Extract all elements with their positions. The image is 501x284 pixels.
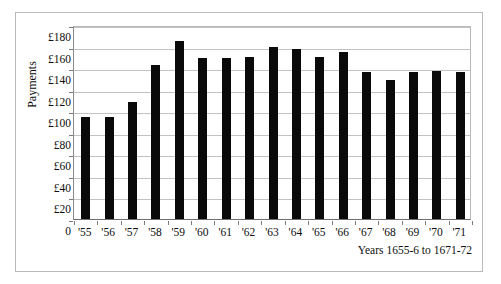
bar <box>151 65 160 219</box>
bar <box>362 72 371 219</box>
bar <box>105 117 114 219</box>
x-axis-tick-label: '70 <box>424 226 447 238</box>
y-axis-tick-labels: Payments 0£20£40£60£80£100£120£140£160£1… <box>16 25 71 235</box>
bar <box>198 58 207 219</box>
y-axis-title: Payments <box>25 40 40 130</box>
x-axis-tick-label: '63 <box>260 226 283 238</box>
y-axis-tick-label: £80 <box>54 140 71 151</box>
y-axis-tick-label: £40 <box>54 183 71 194</box>
y-axis-tick-mark <box>69 156 73 157</box>
y-axis-tick-label: 0 <box>65 226 71 237</box>
y-axis-tick-mark <box>69 92 73 93</box>
y-axis-tick-mark <box>69 178 73 179</box>
x-axis-tick-label: '65 <box>307 226 330 238</box>
x-axis-title: Years 1655-6 to 1671-72 <box>358 244 472 256</box>
x-axis-tick-label: '60 <box>190 226 213 238</box>
x-axis-tick-label: '67 <box>354 226 377 238</box>
bar <box>409 72 418 219</box>
y-axis-tick-mark <box>69 113 73 114</box>
y-axis-tick-mark <box>69 27 73 28</box>
y-axis-tick-label: £100 <box>48 118 71 129</box>
bar <box>222 58 231 219</box>
y-axis-tick-label: £60 <box>54 161 71 172</box>
x-axis-tick-label: '58 <box>143 226 166 238</box>
plot-area <box>73 26 471 220</box>
y-axis-tick-label: £120 <box>48 97 71 108</box>
x-axis-tick-mark <box>472 221 473 225</box>
y-axis-tick-mark <box>69 70 73 71</box>
x-axis-tick-label: '64 <box>284 226 307 238</box>
bar <box>386 80 395 219</box>
y-axis-tick-label: £140 <box>48 75 71 86</box>
x-axis-tick-label: '56 <box>96 226 119 238</box>
y-axis-tick-mark <box>69 199 73 200</box>
bar <box>292 49 301 219</box>
y-axis-tick-label: £180 <box>48 32 71 43</box>
bar <box>315 57 324 219</box>
chart-frame: Payments 0£20£40£60£80£100£120£140£160£1… <box>15 12 483 272</box>
bar <box>128 102 137 219</box>
bar <box>432 71 441 219</box>
x-axis-tick-label: '61 <box>213 226 236 238</box>
bar <box>81 117 90 219</box>
y-axis-tick-mark <box>69 49 73 50</box>
x-axis-tick-label: '69 <box>401 226 424 238</box>
y-axis-tick-label: £20 <box>54 204 71 215</box>
y-gridline <box>74 27 470 28</box>
x-axis-tick-label: '71 <box>448 226 471 238</box>
x-axis-tick-label: '68 <box>377 226 400 238</box>
y-axis-tick-label: £160 <box>48 54 71 65</box>
x-axis-tick-label: '62 <box>237 226 260 238</box>
x-axis-tick-label: '55 <box>73 226 96 238</box>
bar <box>339 52 348 219</box>
y-axis-tick-mark <box>69 135 73 136</box>
x-axis-tick-label: '66 <box>331 226 354 238</box>
bar <box>456 72 465 219</box>
x-axis-tick-labels: '55'56'57'58'59'60'61'62'63'64'65'66'67'… <box>73 221 472 243</box>
x-axis-tick-label: '59 <box>167 226 190 238</box>
bar <box>245 57 254 219</box>
bar <box>175 41 184 219</box>
chart-figure: Payments 0£20£40£60£80£100£120£140£160£1… <box>0 0 501 284</box>
x-axis-tick-label: '57 <box>120 226 143 238</box>
bar <box>269 47 278 219</box>
